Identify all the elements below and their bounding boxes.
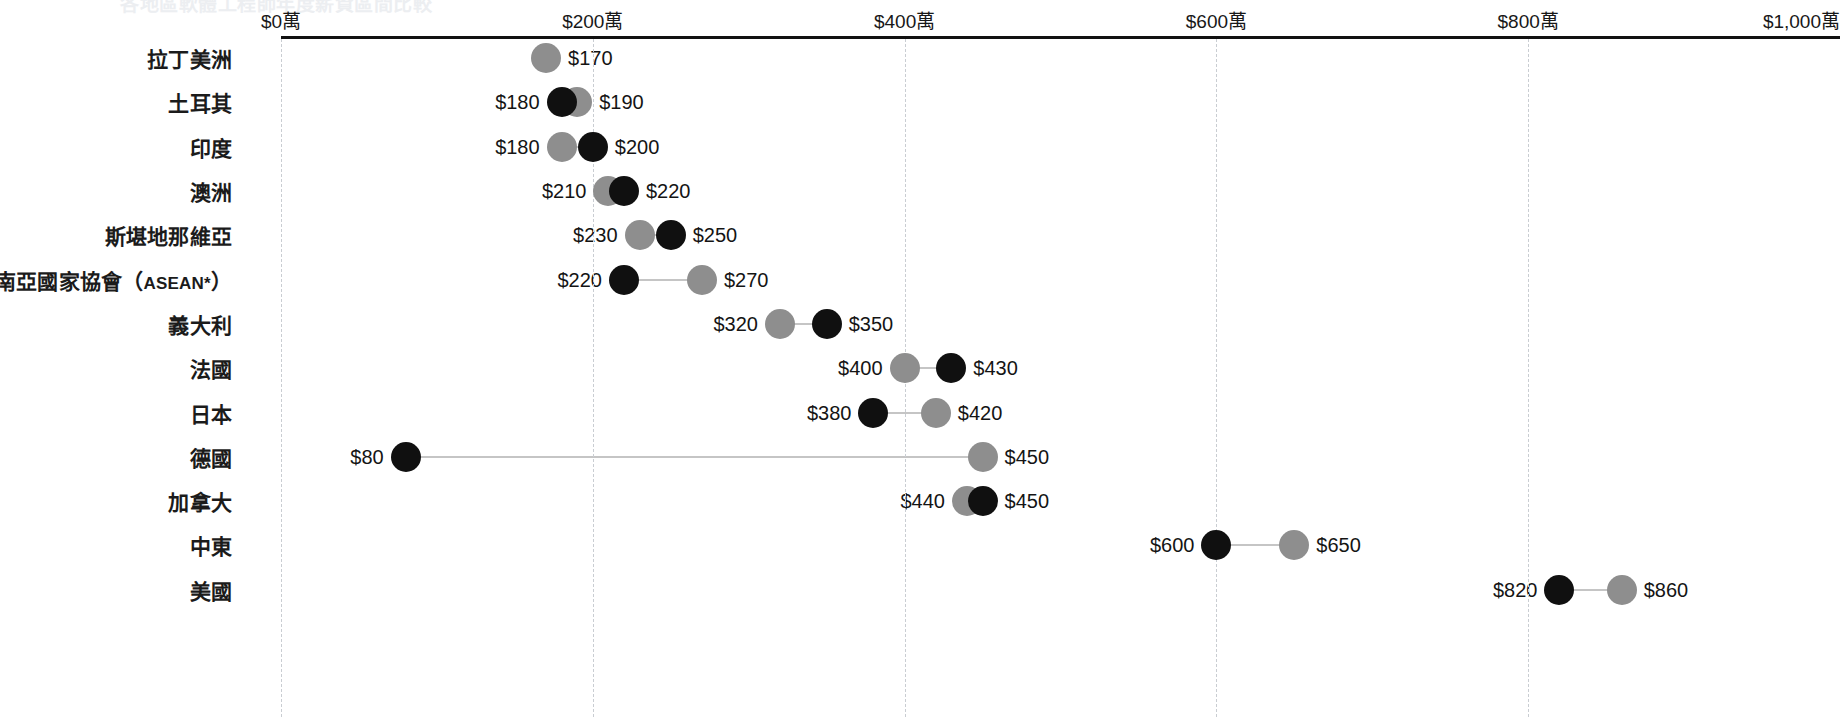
data-point-value-label: $180 [495, 91, 540, 114]
chart-row: 中東$600$650 [0, 523, 1840, 567]
data-point-light[interactable] [1607, 575, 1637, 605]
category-label: 土耳其 [168, 87, 232, 117]
chart-row: 德國$80$450 [0, 435, 1840, 479]
x-axis-tick-label: $600萬 [1186, 6, 1247, 33]
chart-root: 各地區軟體工程師年度薪資區間比較 $0萬$200萬$400萬$600萬$800萬… [0, 0, 1840, 719]
category-label: 加拿大 [168, 486, 232, 516]
asean-abbreviation: ASEAN* [143, 274, 210, 293]
data-point-value-label: $450 [1005, 445, 1050, 468]
data-point-light[interactable] [687, 265, 717, 295]
data-point-value-label: $450 [1005, 490, 1050, 513]
category-label: 美國 [190, 575, 232, 605]
data-point-value-label: $80 [350, 445, 383, 468]
row-plot-area: $440$450 [281, 479, 1840, 523]
data-point-light[interactable] [968, 442, 998, 472]
data-point-dark[interactable] [391, 442, 421, 472]
data-point-value-label: $180 [495, 135, 540, 158]
category-label: 日本 [190, 398, 232, 428]
data-point-value-label: $230 [573, 224, 618, 247]
x-axis-tick-labels: $0萬$200萬$400萬$600萬$800萬$1,000萬 [0, 6, 1840, 36]
data-point-dark[interactable] [1201, 530, 1231, 560]
row-plot-area: $210$220 [281, 169, 1840, 213]
row-plot-area: $400$430 [281, 346, 1840, 390]
data-point-value-label: $400 [838, 357, 883, 380]
chart-row: 拉丁美洲$170 [0, 36, 1840, 80]
data-point-dark[interactable] [812, 309, 842, 339]
row-plot-area: $220$270 [281, 257, 1840, 301]
data-point-value-label: $650 [1316, 534, 1361, 557]
chart-row: 斯堪地那維亞$230$250 [0, 213, 1840, 257]
data-point-light[interactable] [547, 132, 577, 162]
row-plot-area: $180$200 [281, 125, 1840, 169]
chart-row: 東南亞國家協會（ASEAN*）$220$270 [0, 257, 1840, 301]
chart-row: 印度$180$200 [0, 125, 1840, 169]
chart-row: 土耳其$180$190 [0, 80, 1840, 124]
data-point-dark[interactable] [656, 220, 686, 250]
x-axis-tick-label: $400萬 [874, 6, 935, 33]
category-label: 澳洲 [190, 176, 232, 206]
data-point-value-label: $190 [599, 91, 644, 114]
row-plot-area: $380$420 [281, 390, 1840, 434]
data-point-light[interactable] [921, 398, 951, 428]
data-point-value-label: $860 [1644, 578, 1689, 601]
data-point-light[interactable] [625, 220, 655, 250]
data-point-dark[interactable] [936, 353, 966, 383]
row-plot-area: $600$650 [281, 523, 1840, 567]
chart-row: 日本$380$420 [0, 390, 1840, 434]
chart-row: 義大利$320$350 [0, 302, 1840, 346]
data-point-value-label: $270 [724, 268, 769, 291]
gridline [1528, 39, 1529, 717]
gridline [1216, 39, 1217, 717]
category-label: 法國 [190, 353, 232, 383]
chart-row: 美國$820$860 [0, 568, 1840, 612]
dumbbell-connector [406, 456, 983, 457]
data-point-value-label: $320 [713, 312, 758, 335]
data-point-dark[interactable] [968, 486, 998, 516]
data-point-value-label: $250 [693, 224, 738, 247]
category-label: 印度 [190, 132, 232, 162]
category-label: 拉丁美洲 [147, 43, 232, 73]
category-label: 德國 [190, 442, 232, 472]
category-label: 斯堪地那維亞 [105, 220, 232, 250]
data-point-dark[interactable] [609, 265, 639, 295]
chart-row: 澳洲$210$220 [0, 169, 1840, 213]
chart-row: 加拿大$440$450 [0, 479, 1840, 523]
category-label: 中東 [190, 530, 232, 560]
x-axis-tick-label: $200萬 [562, 6, 623, 33]
x-axis-tick-label: $1,000萬 [1763, 6, 1840, 33]
row-plot-area: $320$350 [281, 302, 1840, 346]
data-point-value-label: $430 [973, 357, 1018, 380]
data-point-light[interactable] [765, 309, 795, 339]
data-point-value-label: $200 [615, 135, 660, 158]
data-point-value-label: $170 [568, 47, 613, 70]
row-plot-area: $170 [281, 36, 1840, 80]
data-point-dark[interactable] [547, 87, 577, 117]
data-point-value-label: $820 [1493, 578, 1538, 601]
data-point-value-label: $220 [557, 268, 602, 291]
data-point-value-label: $210 [542, 180, 587, 203]
category-label: 義大利 [168, 309, 232, 339]
data-point-value-label: $380 [807, 401, 852, 424]
data-point-dark[interactable] [609, 176, 639, 206]
chart-row: 法國$400$430 [0, 346, 1840, 390]
x-axis-tick-label: $0萬 [261, 6, 301, 33]
data-point-dark[interactable] [578, 132, 608, 162]
data-point-value-label: $420 [958, 401, 1003, 424]
row-plot-area: $80$450 [281, 435, 1840, 479]
data-point-value-label: $350 [849, 312, 894, 335]
data-point-light[interactable] [890, 353, 920, 383]
x-axis-tick-label: $800萬 [1498, 6, 1559, 33]
data-point-dark[interactable] [858, 398, 888, 428]
row-plot-area: $180$190 [281, 80, 1840, 124]
data-point-value-label: $220 [646, 180, 691, 203]
data-point-dark[interactable] [1544, 575, 1574, 605]
row-plot-area: $230$250 [281, 213, 1840, 257]
data-point-value-label: $440 [900, 490, 945, 513]
data-point-light[interactable] [531, 43, 561, 73]
gridline [281, 39, 282, 717]
category-label: 東南亞國家協會（ASEAN*） [0, 265, 232, 295]
data-point-light[interactable] [1279, 530, 1309, 560]
data-point-value-label: $600 [1150, 534, 1195, 557]
chart-rows: 拉丁美洲$170土耳其$180$190印度$180$200澳洲$210$220斯… [0, 36, 1840, 612]
row-plot-area: $820$860 [281, 568, 1840, 612]
